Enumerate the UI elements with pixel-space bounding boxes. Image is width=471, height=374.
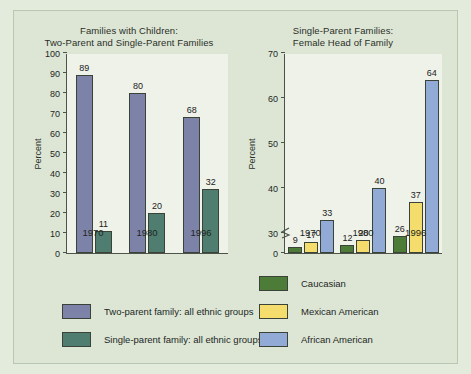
legend-label: African American — [301, 334, 373, 345]
chart-title-right: Single-Parent Families: Female Head of F… — [238, 25, 448, 49]
y-tick-label: 70 — [268, 49, 278, 59]
y-tick-label: 10 — [50, 229, 60, 239]
bar-group-1980: 8020 — [129, 54, 165, 253]
chart-panel-single-parent-female-head: Single-Parent Families: Female Head of F… — [238, 25, 448, 260]
x-axis-ticklabels-right: 197019801996 — [284, 227, 442, 238]
x-tick-label: 1980 — [337, 227, 390, 238]
legend-item[interactable]: Mexican American — [259, 304, 379, 319]
legend-item[interactable]: Two-parent family: all ethnic groups — [62, 304, 262, 319]
y-tick-label: 0 — [55, 249, 60, 259]
axes-right: 91733122040263764 — [284, 54, 442, 254]
legend-label: Two-parent family: all ethnic groups — [104, 306, 253, 317]
y-tick-label: 40 — [268, 184, 278, 194]
bar-group-1970: 8911 — [76, 54, 112, 253]
legend-swatch — [259, 304, 288, 319]
bar[interactable]: 26 — [393, 236, 407, 253]
chart-panel-families-with-children: Families with Children: Two-Parent and S… — [24, 25, 234, 260]
bar-value-label: 37 — [411, 190, 421, 200]
y-tick-label: 50 — [50, 149, 60, 159]
y-axis-ticklabels-left: 0102030405060708090100 — [38, 54, 64, 254]
y-tick-mark — [63, 72, 67, 73]
y-tick-mark — [63, 112, 67, 113]
bar[interactable]: 40 — [372, 188, 386, 253]
legend-swatch — [259, 276, 288, 291]
y-tick-mark — [281, 142, 285, 143]
bar-value-label: 20 — [152, 201, 162, 211]
legend-item[interactable]: Caucasian — [259, 276, 379, 291]
bar-groups-left: 891180206832 — [67, 54, 228, 253]
bar-value-label: 89 — [79, 63, 89, 73]
legend-label: Caucasian — [301, 278, 346, 289]
x-tick-label: 1996 — [174, 227, 228, 238]
bar-group-1996: 263764 — [393, 54, 439, 253]
figure-root: Families with Children: Two-Parent and S… — [0, 0, 471, 374]
y-tick-mark — [281, 252, 285, 253]
y-tick-label: 0 — [273, 249, 278, 259]
legend-swatch — [62, 304, 91, 319]
plot-area-right: Percent 03040506070 91733122040263764 — [238, 54, 448, 254]
bar-value-label: 80 — [133, 81, 143, 91]
y-tick-label: 60 — [268, 94, 278, 104]
y-tick-label: 60 — [50, 129, 60, 139]
legend-item[interactable]: Single-parent family: all ethnic groups — [62, 332, 262, 347]
bar[interactable]: 17 — [304, 242, 318, 253]
y-tick-mark — [281, 52, 285, 53]
y-tick-label: 70 — [50, 109, 60, 119]
bar[interactable]: 9 — [288, 247, 302, 253]
bar-group-1996: 6832 — [183, 54, 219, 253]
y-tick-mark — [63, 52, 67, 53]
y-tick-mark — [63, 212, 67, 213]
x-tick-label: 1996 — [389, 227, 442, 238]
bar[interactable]: 32 — [202, 189, 219, 253]
legend-swatch — [259, 332, 288, 347]
bar-group-1980: 122040 — [340, 54, 386, 253]
y-tick-mark — [63, 92, 67, 93]
y-tick-label: 90 — [50, 69, 60, 79]
plot-area-left: Percent 0102030405060708090100 891180206… — [24, 54, 234, 254]
y-tick-mark — [63, 152, 67, 153]
figure-frame: Families with Children: Two-Parent and S… — [13, 10, 458, 364]
bar-value-label: 40 — [374, 176, 384, 186]
y-tick-label: 30 — [268, 229, 278, 239]
y-tick-label: 30 — [50, 189, 60, 199]
bar-group-1970: 91733 — [288, 54, 334, 253]
bar-groups-right: 91733122040263764 — [285, 54, 442, 253]
y-tick-mark — [63, 172, 67, 173]
bar[interactable]: 20 — [356, 240, 370, 253]
y-tick-mark — [281, 187, 285, 188]
axes-left: 891180206832 — [66, 54, 228, 254]
y-axis-ticklabels-right: 03040506070 — [256, 54, 282, 254]
y-tick-mark — [63, 192, 67, 193]
x-tick-label: 1970 — [66, 227, 120, 238]
x-tick-label: 1980 — [120, 227, 174, 238]
y-tick-label: 50 — [268, 139, 278, 149]
bar-value-label: 33 — [322, 208, 332, 218]
bar[interactable]: 12 — [340, 245, 354, 253]
y-tick-mark — [63, 252, 67, 253]
y-tick-label: 40 — [50, 169, 60, 179]
y-tick-mark — [63, 132, 67, 133]
chart-title-left: Families with Children: Two-Parent and S… — [24, 25, 234, 49]
y-tick-label: 20 — [50, 209, 60, 219]
legend-swatch — [62, 332, 91, 347]
y-tick-label: 100 — [45, 49, 60, 59]
legend-label: Mexican American — [301, 306, 379, 317]
y-tick-label: 80 — [50, 89, 60, 99]
bar-value-label: 64 — [427, 68, 437, 78]
x-axis-ticklabels-left: 197019801996 — [66, 227, 228, 238]
bar-value-label: 68 — [187, 105, 197, 115]
legend-label: Single-parent family: all ethnic groups — [104, 334, 262, 345]
legend-item[interactable]: African American — [259, 332, 379, 347]
legend-right: CaucasianMexican AmericanAfrican America… — [259, 276, 379, 347]
legend-left: Two-parent family: all ethnic groupsSing… — [62, 304, 262, 347]
y-tick-mark — [281, 97, 285, 98]
x-tick-label: 1970 — [284, 227, 337, 238]
bar-value-label: 32 — [206, 177, 216, 187]
